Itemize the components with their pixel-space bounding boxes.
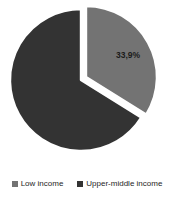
legend-label-upper-middle-income: Upper-middle income: [86, 179, 162, 189]
pie-plot-area: 33,9%: [0, 0, 174, 166]
legend-item-upper-middle-income[interactable]: Upper-middle income: [77, 179, 162, 189]
pie-svg: 33,9%: [0, 0, 174, 166]
legend-label-low-income: Low income: [21, 179, 64, 189]
legend-swatch-icon-upper-middle-income: [77, 181, 83, 187]
legend-item-low-income[interactable]: Low income: [12, 179, 64, 189]
pie-slice-value-label: 33,9%: [116, 50, 141, 60]
pie-chart-figure: 33,9% Low income Upper-middle income: [0, 0, 174, 197]
legend-swatch-icon-low-income: [12, 181, 18, 187]
chart-legend: Low income Upper-middle income: [0, 174, 174, 194]
